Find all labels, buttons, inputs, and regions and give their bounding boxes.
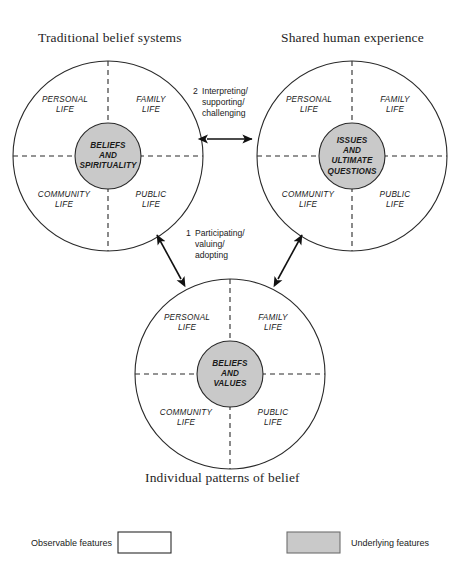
quadrant-family-life-shared: FAMILY LIFE bbox=[364, 95, 426, 116]
legend-swatch-observable bbox=[118, 532, 171, 553]
core-label-beliefs-and-spirituality: BELIEFS AND SPIRITUALITY bbox=[72, 141, 144, 172]
core-label-issues-and-ultimate-questions: ISSUES AND ULTIMATE QUESTIONS bbox=[316, 136, 388, 177]
quadrant-community-life-traditional: COMMUNITY LIFE bbox=[28, 190, 100, 211]
title-traditional-belief-systems: Traditional belief systems bbox=[38, 30, 182, 46]
quadrant-family-life-individual: FAMILY LIFE bbox=[242, 313, 304, 334]
title-shared-human-experience: Shared human experience bbox=[281, 30, 424, 46]
connector-2-label: Interpreting/ supporting/ challenging bbox=[202, 86, 267, 119]
quadrant-public-life-individual: PUBLIC LIFE bbox=[242, 408, 304, 429]
connector-1-number: 1 bbox=[186, 228, 191, 238]
belief-systems-diagram: Traditional belief systems Shared human … bbox=[0, 0, 461, 581]
connector-1-arrow-left bbox=[157, 235, 181, 279]
core-label-beliefs-and-values: BELIEFS AND VALUES bbox=[194, 359, 266, 390]
connector-1-arrow-right bbox=[278, 235, 302, 279]
legend-label-observable-features: Observable features bbox=[31, 538, 112, 548]
quadrant-personal-life-shared: PERSONAL LIFE bbox=[278, 95, 340, 116]
legend-swatch-underlying bbox=[287, 532, 340, 553]
quadrant-community-life-shared: COMMUNITY LIFE bbox=[272, 190, 344, 211]
caption-individual-patterns-of-belief: Individual patterns of belief bbox=[145, 470, 300, 486]
quadrant-personal-life-individual: PERSONAL LIFE bbox=[156, 313, 218, 334]
quadrant-family-life-traditional: FAMILY LIFE bbox=[120, 95, 182, 116]
quadrant-personal-life-traditional: PERSONAL LIFE bbox=[34, 95, 96, 116]
connector-1-label: Participating/ valuing/ adopting bbox=[195, 228, 270, 261]
quadrant-community-life-individual: COMMUNITY LIFE bbox=[150, 408, 222, 429]
quadrant-public-life-traditional: PUBLIC LIFE bbox=[120, 190, 182, 211]
legend-label-underlying-features: Underlying features bbox=[351, 538, 429, 548]
connector-2-number: 2 bbox=[193, 86, 198, 96]
quadrant-public-life-shared: PUBLIC LIFE bbox=[364, 190, 426, 211]
